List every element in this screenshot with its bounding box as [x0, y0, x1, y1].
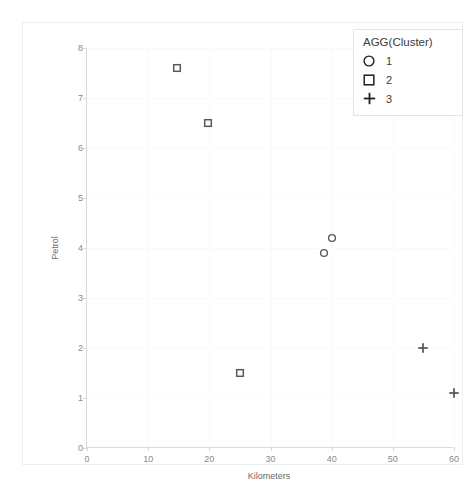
legend[interactable]: AGG(Cluster) 123	[353, 29, 463, 116]
y-tickmark	[83, 48, 87, 49]
data-point-circle[interactable]	[319, 249, 328, 258]
legend-item-3[interactable]: 3	[363, 89, 454, 108]
x-tickmark	[209, 447, 210, 451]
x-tick-label: 30	[265, 454, 275, 464]
x-tickmark	[454, 447, 455, 451]
gridline	[271, 48, 272, 447]
y-tick-label: 3	[78, 293, 83, 303]
y-tick-label: 2	[78, 343, 83, 353]
x-tickmark	[148, 447, 149, 451]
x-tickmark	[393, 447, 394, 451]
square-icon	[363, 74, 383, 86]
data-point-circle[interactable]	[327, 234, 336, 243]
x-tick-label: 10	[143, 454, 153, 464]
x-tickmark	[87, 447, 88, 451]
plus-icon	[363, 92, 383, 105]
data-point-plus[interactable]	[449, 388, 460, 399]
legend-items: 123	[363, 51, 454, 108]
data-point-square[interactable]	[204, 119, 213, 128]
y-tickmark	[83, 348, 87, 349]
y-tick-label: 0	[78, 443, 83, 453]
circle-icon	[363, 55, 383, 67]
y-tick-label: 4	[78, 243, 83, 253]
legend-item-2[interactable]: 2	[363, 70, 454, 89]
y-tickmark	[83, 298, 87, 299]
x-tick-label: 40	[327, 454, 337, 464]
y-tick-label: 5	[78, 193, 83, 203]
data-point-plus[interactable]	[418, 343, 429, 354]
x-axis-title: Kilometers	[248, 471, 291, 481]
y-tickmark	[83, 198, 87, 199]
y-tickmark	[83, 398, 87, 399]
y-axis-title: Petrol	[50, 236, 60, 260]
legend-label: 3	[386, 93, 392, 105]
x-tick-label: 60	[449, 454, 459, 464]
y-tickmark	[83, 98, 87, 99]
y-tick-label: 1	[78, 393, 83, 403]
y-tick-label: 8	[78, 43, 83, 53]
x-tick-label: 50	[388, 454, 398, 464]
x-tick-label: 20	[204, 454, 214, 464]
legend-label: 2	[386, 74, 392, 86]
gridline	[209, 48, 210, 447]
legend-item-1[interactable]: 1	[363, 51, 454, 70]
x-tickmark	[271, 447, 272, 451]
visualization-container: 012345678 0102030405060 Petrol Kilometer…	[22, 22, 463, 465]
x-tickmark	[332, 447, 333, 451]
gridline	[148, 48, 149, 447]
data-point-square[interactable]	[235, 369, 244, 378]
gridline	[332, 48, 333, 447]
y-tick-label: 7	[78, 93, 83, 103]
data-point-square[interactable]	[172, 64, 181, 73]
legend-title: AGG(Cluster)	[363, 36, 454, 48]
y-tick-label: 6	[78, 143, 83, 153]
y-tickmark	[83, 148, 87, 149]
legend-label: 1	[386, 55, 392, 67]
x-tick-label: 0	[84, 454, 89, 464]
y-tickmark	[83, 248, 87, 249]
